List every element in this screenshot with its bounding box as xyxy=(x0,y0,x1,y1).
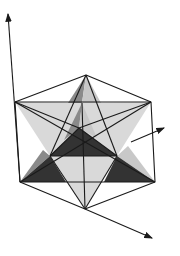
vertical-axis-arrow xyxy=(8,14,20,182)
polyhedron-diagram xyxy=(0,0,180,256)
figure-canvas xyxy=(0,0,180,256)
lower-axis-arrow xyxy=(85,209,152,238)
right-axis-arrow xyxy=(131,128,164,142)
